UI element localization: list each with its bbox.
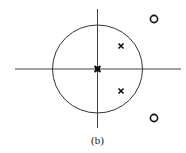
figure-caption: (b) <box>0 134 186 146</box>
zero-lower-icon <box>150 114 157 121</box>
zero-upper-icon <box>150 15 157 22</box>
pole-lower-icon <box>119 89 124 94</box>
pole-origin-icon <box>95 66 101 72</box>
pole-zero-diagram <box>0 0 186 153</box>
pole-upper-icon <box>119 44 124 49</box>
